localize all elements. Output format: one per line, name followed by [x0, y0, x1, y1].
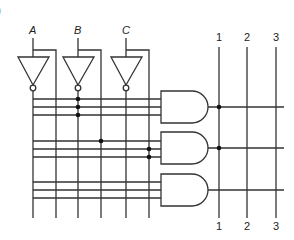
- input-a-wiring: [18, 38, 56, 218]
- input-c-wiring: [111, 38, 149, 218]
- junction-dot-icon: [217, 105, 222, 110]
- and-gate-1-icon: [161, 91, 208, 123]
- inverter-a-icon: [18, 57, 49, 85]
- junction-dot-icon: [76, 105, 81, 110]
- and-gate-3-icon: [161, 174, 208, 206]
- logic-circuit-diagram: ) A B C: [0, 0, 294, 240]
- junction-dot-icon: [76, 97, 81, 102]
- junction-dot-icon: [147, 147, 152, 152]
- input-b-wiring: [63, 38, 101, 218]
- output-label-top-2: 2: [244, 31, 250, 43]
- output-label-bottom-1: 1: [216, 220, 222, 232]
- inverter-c-bubble-icon: [123, 85, 129, 91]
- junction-dot-icon: [76, 113, 81, 118]
- input-label-c: C: [122, 24, 130, 36]
- output-label-bottom-3: 3: [273, 220, 279, 232]
- inverter-b-bubble-icon: [75, 85, 81, 91]
- inverter-a-bubble-icon: [30, 85, 36, 91]
- input-label-b: B: [74, 24, 81, 36]
- and-gate-2-icon: [161, 132, 208, 164]
- output-label-top-3: 3: [273, 31, 279, 43]
- output-label-top-1: 1: [216, 31, 222, 43]
- junction-dot-icon: [147, 155, 152, 160]
- figure-corner-mark: ): [0, 3, 1, 17]
- inverter-b-icon: [63, 57, 94, 85]
- inverter-c-icon: [111, 57, 142, 85]
- output-columns: [219, 47, 276, 218]
- gate-input-rows: [33, 99, 161, 198]
- output-label-bottom-2: 2: [244, 220, 250, 232]
- junction-dot-icon: [99, 139, 104, 144]
- input-label-a: A: [28, 24, 36, 36]
- junction-dot-icon: [217, 146, 222, 151]
